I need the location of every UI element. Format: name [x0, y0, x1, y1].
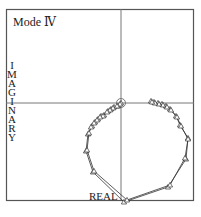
y-axis-letter: Y: [7, 133, 17, 142]
plot-area: [0, 0, 201, 217]
series-layer: [83, 98, 190, 204]
y-axis-label: I M A G I N A R Y: [7, 61, 17, 142]
chart-title: Mode Ⅳ: [13, 15, 56, 30]
x-axis-label: REAL: [89, 190, 118, 202]
